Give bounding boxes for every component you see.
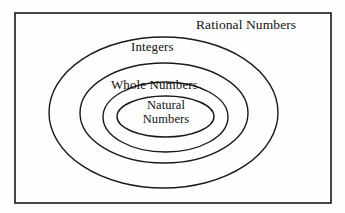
rational-numbers-label: Rational Numbers	[196, 18, 296, 33]
number-sets-euler-diagram: Rational Numbers Integers Whole Numbers …	[0, 0, 345, 213]
integers-label: Integers	[131, 40, 174, 54]
natural-numbers-label-line-1: Natural	[147, 98, 185, 112]
natural-numbers-label-line-2: Numbers	[129, 113, 203, 127]
natural-numbers-label: Natural Numbers	[129, 99, 203, 126]
whole-numbers-label: Whole Numbers	[111, 78, 198, 92]
